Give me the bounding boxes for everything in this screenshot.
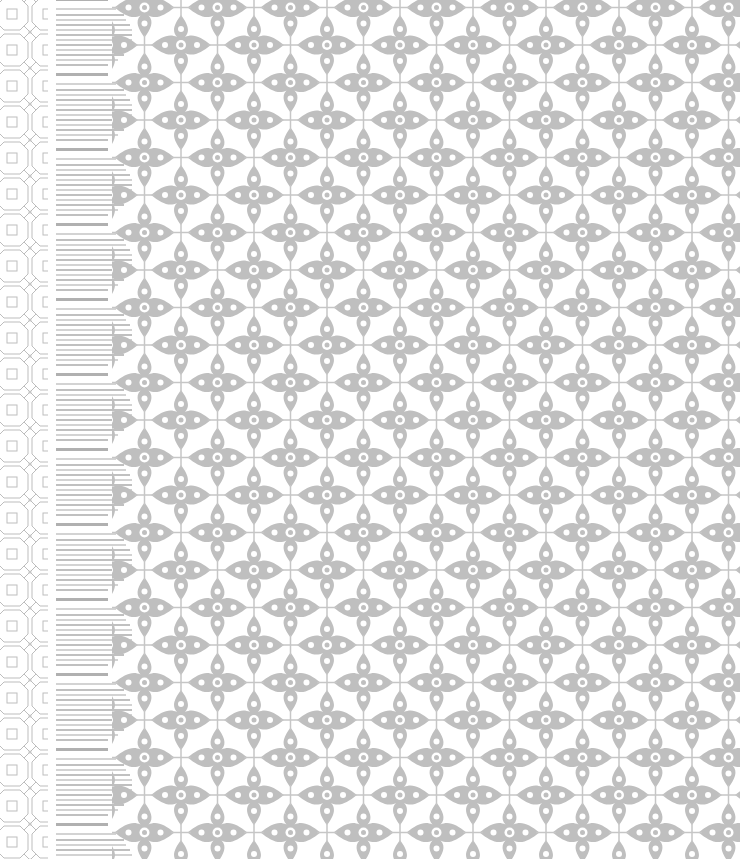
damask-pattern [112,0,740,859]
octagon-lattice-border [0,0,48,859]
